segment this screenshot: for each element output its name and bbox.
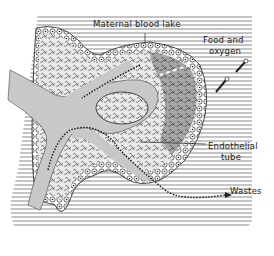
tissue-island: [96, 92, 148, 124]
label-food-and-oxygen-2: oxygen: [209, 46, 241, 56]
label-food-and-oxygen-1: Food and: [203, 35, 244, 45]
label-maternal-blood-lake: Maternal blood lake: [93, 19, 181, 29]
label-wastes: Wastes: [230, 186, 262, 196]
label-endothelial-tube-2: tube: [221, 152, 241, 162]
label-endothelial-tube-1: Endothelial: [208, 141, 258, 151]
